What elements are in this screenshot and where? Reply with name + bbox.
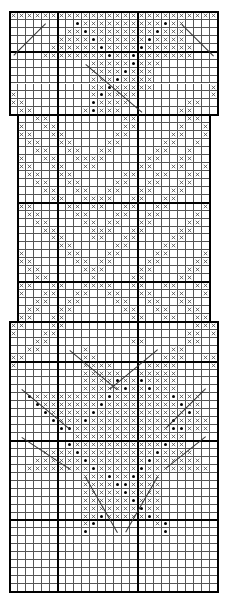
knit-cell: [66, 330, 74, 338]
knit-cell: [26, 60, 34, 68]
purl-cell: [138, 393, 146, 401]
knit-cell: [10, 568, 18, 576]
cable-dot-cell: [122, 385, 130, 393]
knit-cell: [42, 163, 50, 171]
knit-cell: [106, 131, 114, 139]
knit-cell: [202, 536, 210, 544]
purl-cross-icon: [74, 417, 81, 424]
purl-cell: [26, 211, 34, 219]
purl-cell: [26, 131, 34, 139]
cable-dot-icon: [108, 54, 111, 57]
purl-cross-icon: [82, 219, 89, 226]
purl-cross-icon: [66, 12, 73, 19]
purl-cross-icon: [90, 28, 97, 35]
purl-cell: [146, 155, 154, 163]
empty-space: [210, 155, 218, 163]
knit-cell: [146, 139, 154, 147]
knit-cell: [74, 385, 82, 393]
purl-cross-icon: [154, 36, 161, 43]
purl-cell: [154, 417, 162, 425]
purl-cell: [122, 473, 130, 481]
knit-cell: [74, 84, 82, 92]
knit-cell: [34, 234, 42, 242]
knit-cell: [34, 187, 42, 195]
knit-cell: [18, 457, 26, 465]
knit-cell: [98, 560, 106, 568]
purl-cross-icon: [130, 465, 137, 472]
knit-cell: [122, 155, 130, 163]
purl-cross-icon: [194, 425, 201, 432]
purl-cell: [154, 362, 162, 370]
purl-cell: [98, 449, 106, 457]
knit-cell: [18, 417, 26, 425]
purl-cross-icon: [154, 513, 161, 520]
purl-cell: [90, 28, 98, 36]
knit-cell: [66, 520, 74, 528]
knit-cell: [58, 298, 66, 306]
purl-cross-icon: [130, 417, 137, 424]
purl-cross-icon: [146, 473, 153, 480]
knit-cell: [138, 115, 146, 123]
purl-cell: [66, 401, 74, 409]
purl-cell: [74, 203, 82, 211]
purl-cross-icon: [186, 179, 193, 186]
knit-cell: [170, 258, 178, 266]
purl-cell: [154, 12, 162, 20]
purl-cross-icon: [146, 219, 153, 226]
purl-cross-icon: [154, 425, 161, 432]
purl-cross-icon: [114, 497, 121, 504]
cable-dot-icon: [140, 379, 143, 382]
purl-cell: [106, 227, 114, 235]
knit-cell: [74, 346, 82, 354]
purl-cross-icon: [122, 465, 129, 472]
knit-cell: [26, 370, 34, 378]
purl-cross-icon: [162, 409, 169, 416]
purl-cross-icon: [34, 266, 41, 273]
purl-cell: [26, 203, 34, 211]
cable-dot-icon: [124, 70, 127, 73]
purl-cross-icon: [58, 242, 65, 249]
knit-cell: [10, 417, 18, 425]
knit-cell: [66, 258, 74, 266]
knit-cell: [178, 568, 186, 576]
knit-cell: [114, 171, 122, 179]
purl-cross-icon: [162, 44, 169, 51]
thick-row-line: [9, 591, 219, 593]
purl-cell: [82, 401, 90, 409]
purl-cell: [170, 449, 178, 457]
knit-cell: [58, 203, 66, 211]
knit-cell: [90, 298, 98, 306]
knit-cell: [170, 171, 178, 179]
knit-cell: [82, 147, 90, 155]
purl-cross-icon: [202, 290, 209, 297]
purl-cross-icon: [74, 155, 81, 162]
purl-cell: [82, 385, 90, 393]
purl-cell: [82, 155, 90, 163]
purl-cross-icon: [162, 401, 169, 408]
knit-cell: [42, 536, 50, 544]
purl-cross-icon: [194, 99, 201, 106]
purl-cell: [26, 12, 34, 20]
empty-space: [210, 139, 218, 147]
cable-dot-cell: [90, 36, 98, 44]
knit-cell: [74, 60, 82, 68]
purl-cross-icon: [98, 441, 105, 448]
thick-row-line: [9, 361, 219, 363]
purl-cell: [98, 409, 106, 417]
knit-cell: [58, 219, 66, 227]
knit-cell: [146, 227, 154, 235]
purl-cross-icon: [138, 370, 145, 377]
knit-cell: [186, 346, 194, 354]
cable-dot-cell: [82, 28, 90, 36]
cable-dot-icon: [148, 387, 151, 390]
knit-cell: [18, 227, 26, 235]
purl-cross-icon: [114, 131, 121, 138]
knit-cell: [42, 60, 50, 68]
knit-cell: [194, 234, 202, 242]
purl-cross-icon: [82, 433, 89, 440]
knit-cell: [34, 76, 42, 84]
purl-cross-icon: [162, 139, 169, 146]
knit-cell: [194, 298, 202, 306]
purl-cross-icon: [98, 465, 105, 472]
purl-cell: [106, 219, 114, 227]
